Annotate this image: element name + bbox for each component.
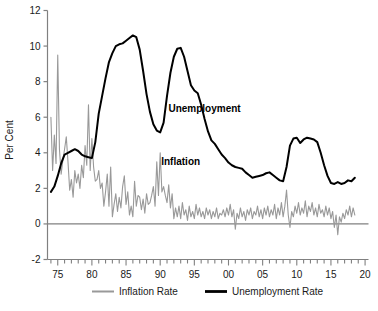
x-tick-label: 95 (189, 269, 201, 280)
x-tick-label: 10 (291, 269, 303, 280)
y-tick-label: 0 (35, 218, 41, 229)
y-tick-label: 8 (35, 76, 41, 87)
inflation-unemployment-line-chart: -2024681012 75808590950005101520 Unemplo… (0, 0, 378, 311)
chart-figure: -2024681012 75808590950005101520 Unemplo… (0, 0, 378, 311)
legend-label-0: Inflation Rate (119, 286, 178, 297)
y-tick-label: 2 (35, 183, 41, 194)
legend-label-1: Unemployment Rate (232, 286, 324, 297)
x-tick-label: 80 (86, 269, 98, 280)
x-tick-label: 90 (155, 269, 167, 280)
annotation-inflation: Inflation (161, 156, 200, 167)
x-tick-label: 05 (257, 269, 269, 280)
y-tick-label: 12 (29, 5, 41, 16)
x-tick-label: 00 (223, 269, 235, 280)
y-tick-label: 6 (35, 112, 41, 123)
y-axis-title-text: Per Cent (4, 120, 15, 160)
y-tick-label: 4 (35, 147, 41, 158)
y-tick-label: -2 (32, 254, 41, 265)
x-tick-label: 85 (120, 269, 132, 280)
y-axis-title: Per Cent (4, 120, 15, 160)
x-tick-label: 15 (325, 269, 337, 280)
x-tick-label: 75 (52, 269, 64, 280)
x-tick-label: 20 (360, 269, 372, 280)
annotation-unemployment: Unemployment (168, 103, 241, 114)
y-tick-label: 10 (29, 41, 41, 52)
